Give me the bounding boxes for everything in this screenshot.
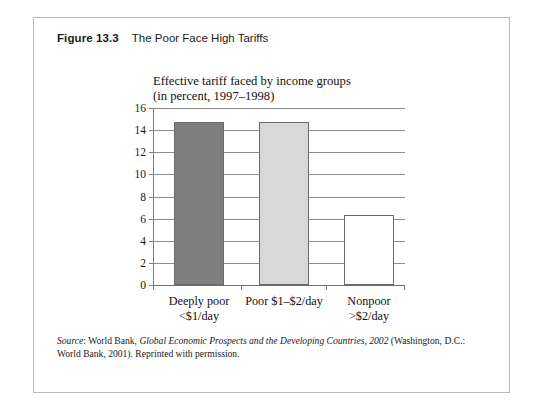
xlabel-deeply-poor-line-2: <$1/day [169,309,230,324]
gridline-16 [153,108,405,109]
xlabel-deeply-poor: Deeply poor <$1/day [169,294,230,323]
ytick-mark-10 [149,174,153,175]
chart-title-line-1: Effective tariff faced by income groups [153,74,351,89]
xlabel-nonpoor-line-2: >$2/day [347,309,390,324]
source-note: Source: World Bank, Global Economic Pros… [57,334,489,360]
ytick-label-16: 16 [135,102,147,114]
figure-box: Figure 13.3The Poor Face High Tariffs Ef… [33,17,510,393]
bar-nonpoor[interactable] [344,215,394,285]
chart-title-line-2: (in percent, 1997–1998) [153,89,351,104]
xlabel-nonpoor: Nonpoor >$2/day [347,294,390,323]
ytick-label-14: 14 [135,124,147,136]
ytick-mark-2 [149,263,153,264]
ytick-label-8: 8 [140,191,146,203]
source-work-title: Global Economic Prospects and the Develo… [139,335,388,346]
bar-deeply-poor[interactable] [174,122,224,285]
xtick-3 [404,285,405,290]
ytick-mark-8 [149,197,153,198]
xlabel-poor: Poor $1–$2/day [245,294,323,309]
ytick-mark-12 [149,152,153,153]
source-label: Source [57,335,83,346]
ytick-label-2: 2 [140,257,146,269]
ytick-label-4: 4 [140,235,146,247]
ytick-label-10: 10 [135,168,147,180]
ytick-mark-4 [149,241,153,242]
xlabel-nonpoor-line-1: Nonpoor [347,294,390,309]
ytick-mark-14 [149,130,153,131]
chart-title: Effective tariff faced by income groups … [153,74,351,103]
xtick-0 [153,285,154,290]
ytick-mark-16 [149,108,153,109]
xlabel-deeply-poor-line-1: Deeply poor [169,294,230,309]
source-publisher-pre: World Bank, [86,335,139,346]
plot-area: 16 14 12 10 8 6 4 2 0 [153,108,405,285]
xtick-2 [326,285,327,290]
xlabel-poor-line-1: Poor $1–$2/day [245,294,323,309]
ytick-label-12: 12 [135,146,147,158]
xtick-1 [241,285,242,290]
x-axis-baseline [153,285,405,286]
ytick-label-0: 0 [140,279,146,291]
bar-poor[interactable] [259,122,309,285]
ytick-mark-6 [149,219,153,220]
ytick-label-6: 6 [140,213,146,225]
